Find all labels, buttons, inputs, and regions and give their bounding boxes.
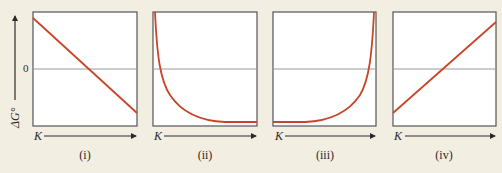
panel-i [33, 12, 137, 136]
panel-label-i: (i) [79, 149, 90, 161]
y-axis-label: ΔG° [9, 107, 21, 128]
panel-iv [393, 12, 496, 136]
panel-label-iv: (iv) [435, 149, 452, 161]
x-axis-label-ii: K [154, 130, 162, 142]
panel-iii [273, 12, 376, 136]
x-axis-label-iv: K [394, 130, 402, 142]
chart-canvas [0, 0, 502, 173]
panel-label-iii: (iii) [316, 149, 334, 161]
x-axis-label-i: K [34, 130, 42, 142]
x-axis-label-iii: K [275, 130, 283, 142]
zero-tick-label: 0 [23, 63, 29, 74]
panel-ii [153, 12, 257, 136]
figure: 0 ΔG° K K K K (i) (ii) (iii) (iv) [0, 0, 502, 173]
panel-label-ii: (ii) [198, 149, 213, 161]
